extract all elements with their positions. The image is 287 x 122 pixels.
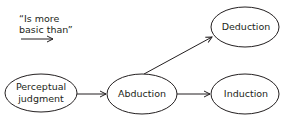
node-abduction: Abduction <box>107 74 177 114</box>
legend: “Is more basic than” <box>19 13 73 39</box>
edge-abduction-to-deduction <box>144 37 212 74</box>
node-perceptual-judgment-label-line1: Perceptual <box>16 81 66 92</box>
diagram-canvas: “Is more basic than” Perceptual judgment… <box>0 0 287 122</box>
legend-label-line2: basic than” <box>19 24 73 35</box>
node-perceptual-judgment-label-line2: judgment <box>17 93 64 104</box>
legend-label-line1: “Is more <box>19 13 59 24</box>
node-perceptual-judgment: Perceptual judgment <box>5 74 77 112</box>
node-deduction-label: Deduction <box>222 21 271 32</box>
node-induction-label: Induction <box>224 88 268 99</box>
node-abduction-label: Abduction <box>118 88 166 99</box>
node-induction: Induction <box>211 74 279 114</box>
node-deduction: Deduction <box>211 7 279 47</box>
